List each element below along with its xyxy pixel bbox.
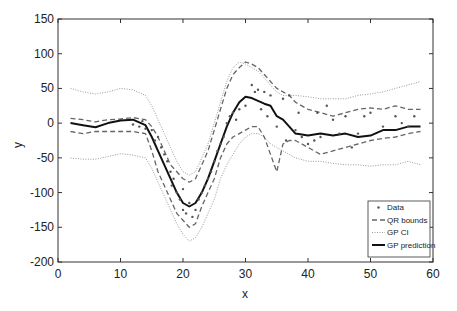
data-point <box>369 112 371 114</box>
data-point <box>407 125 409 127</box>
data-point <box>138 125 140 127</box>
data-point <box>194 209 196 211</box>
data-point <box>260 108 262 110</box>
data-point <box>244 105 246 107</box>
data-point <box>171 184 173 186</box>
data-point <box>213 160 215 162</box>
series-gp-prediction <box>71 97 421 207</box>
data-point <box>363 115 365 117</box>
data-point <box>176 191 178 193</box>
x-axis-label: x <box>242 287 248 301</box>
x-tick-label: 50 <box>364 267 378 281</box>
y-tick-label: 0 <box>47 116 54 130</box>
data-point <box>297 112 299 114</box>
data-point <box>141 120 143 122</box>
data-point <box>288 94 290 96</box>
data-point <box>219 143 221 145</box>
data-point <box>191 216 193 218</box>
data-point <box>394 115 396 117</box>
data-point <box>182 209 184 211</box>
data-point <box>172 178 174 180</box>
data-point <box>188 202 190 204</box>
data-point <box>204 184 206 186</box>
data-point <box>182 188 184 190</box>
data-point <box>238 108 240 110</box>
data-point <box>210 171 212 173</box>
data-point <box>201 191 203 193</box>
data-point <box>276 125 278 127</box>
y-tick-label: -100 <box>30 186 54 200</box>
y-tick-label: 100 <box>34 47 54 61</box>
data-point <box>301 136 303 138</box>
x-tick-label: 30 <box>239 267 253 281</box>
data-point <box>269 94 271 96</box>
x-tick-label: 60 <box>426 267 440 281</box>
data-point <box>316 112 318 114</box>
data-point <box>216 150 218 152</box>
y-tick-label: -50 <box>37 151 55 165</box>
data-point <box>179 198 181 200</box>
y-tick-label: -150 <box>30 220 54 234</box>
data-point <box>207 178 209 180</box>
y-axis-label: y <box>11 142 25 148</box>
x-tick-label: 40 <box>301 267 315 281</box>
data-point <box>226 122 228 124</box>
data-point <box>263 91 265 93</box>
legend-label: QR bounds <box>387 216 427 225</box>
data-point <box>132 123 134 125</box>
data-point <box>413 115 415 117</box>
data-point <box>401 122 403 124</box>
data-point <box>229 115 231 117</box>
y-tick-label: -200 <box>30 255 54 269</box>
data-point <box>166 160 168 162</box>
data-point <box>151 129 153 131</box>
data-point <box>251 84 253 86</box>
data-point <box>344 115 346 117</box>
data-point <box>169 171 171 173</box>
x-tick-label: 20 <box>176 267 190 281</box>
legend-data-icon <box>377 206 379 208</box>
chart: 0102030405060 150100500-50-100-150-200 x… <box>0 0 457 311</box>
data-point <box>266 115 268 117</box>
data-point <box>351 146 353 148</box>
data-point <box>222 136 224 138</box>
legend-label: GP CI <box>387 228 409 237</box>
data-point <box>157 136 159 138</box>
data-point <box>144 128 146 130</box>
y-tick-label: 150 <box>34 12 54 26</box>
series-qr-upper <box>71 62 421 182</box>
data-point <box>357 132 359 134</box>
data-point <box>282 98 284 100</box>
data-point <box>338 132 340 134</box>
data-point <box>163 153 165 155</box>
data-point <box>294 129 296 131</box>
y-tick-label: 50 <box>41 81 55 95</box>
data-point <box>232 112 234 114</box>
data-point <box>319 136 321 138</box>
data-point <box>160 146 162 148</box>
data-point <box>332 119 334 121</box>
data-point <box>257 89 259 91</box>
data-point <box>307 143 309 145</box>
legend-label: GP prediction <box>387 241 435 250</box>
data-point <box>254 91 256 93</box>
data-point <box>313 139 315 141</box>
x-tick-label: 0 <box>55 267 62 281</box>
data-point <box>197 198 199 200</box>
x-tick-label: 10 <box>114 267 128 281</box>
legend: DataQR boundsGP CIGP prediction <box>368 201 435 257</box>
data-point <box>154 139 156 141</box>
data-points <box>132 84 416 218</box>
legend-label: Data <box>387 203 404 212</box>
data-point <box>326 105 328 107</box>
data-point <box>235 119 237 121</box>
data-point <box>285 139 287 141</box>
data-point <box>382 125 384 127</box>
data-point <box>185 212 187 214</box>
